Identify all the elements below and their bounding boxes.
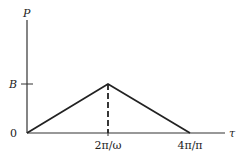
x-axis-label: τ [229,127,236,140]
origin-label: 0 [10,127,17,140]
triangular-pulse-chart: P τ 0 B 2π/ω 4π/π [0,0,240,156]
x-tick-2-label: 4π/π [177,139,202,152]
y-axis-label: P [22,7,31,20]
b-label: B [8,78,17,91]
x-tick-1-label: 2π/ω [95,139,122,152]
